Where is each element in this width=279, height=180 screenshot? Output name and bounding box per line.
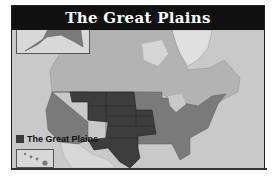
hawaii-inset <box>16 149 54 168</box>
legend-label: The Great Plains <box>27 134 98 144</box>
frame-shadow <box>11 168 267 170</box>
map-title: The Great Plains <box>12 6 264 30</box>
legend-swatch <box>16 135 24 143</box>
map-frame: The Great Plains The G <box>11 5 265 169</box>
hawaii-map <box>17 150 53 167</box>
map-legend: The Great Plains <box>16 134 98 144</box>
